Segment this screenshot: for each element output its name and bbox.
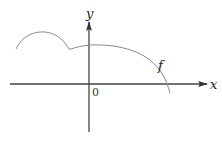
x-axis-label: x <box>210 77 218 92</box>
function-graph: y x 0 f <box>0 0 222 141</box>
y-axis-label: y <box>85 6 94 21</box>
curve-label-f: f <box>157 58 165 73</box>
origin-label: 0 <box>92 86 99 99</box>
